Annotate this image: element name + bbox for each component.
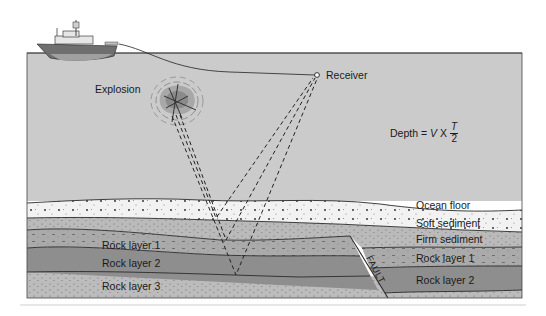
rock-layer-1-right-label: Rock layer 1 [416,253,474,264]
rock-layer-3-left-label: Rock layer 3 [102,281,160,292]
ocean-floor-label: Ocean floor [416,200,470,211]
formula-velocity: V [430,127,437,139]
rock-layer-2-right-label: Rock layer 2 [416,275,474,286]
seismic-diagram [0,0,546,316]
formula-denominator: 2 [451,134,457,145]
formula-lhs: Depth = [390,127,427,139]
formula-times: X [440,127,447,139]
explosion-label: Explosion [95,84,141,95]
rock-layer-2-left-label: Rock layer 2 [102,258,160,269]
formula-fraction: T 2 [450,122,458,144]
receiver-label: Receiver [326,70,367,81]
survey-ship [37,20,118,61]
depth-formula: Depth = V X T 2 [390,122,458,144]
soft-sediment-label: Soft sediment [416,218,480,229]
firm-sediment-label: Firm sediment [416,234,483,245]
formula-numerator: T [450,122,458,134]
receiver-icon [315,73,320,78]
rock-layer-1-left-label: Rock layer 1 [102,240,160,251]
